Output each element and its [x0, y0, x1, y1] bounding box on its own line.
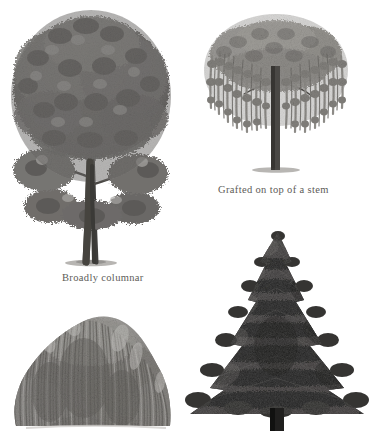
- trunk-overlay: [86, 162, 90, 262]
- trunk-overlay-shadow: [92, 166, 94, 262]
- ground-line: [26, 426, 166, 428]
- canopy-grain: [11, 10, 171, 182]
- figure-conifer: [182, 228, 370, 431]
- conifer-grain: [182, 228, 370, 431]
- trunk-overlay-shadow: [270, 408, 275, 431]
- illustration-page: Broadly columnar: [0, 0, 373, 431]
- ground-shadow-core: [76, 260, 106, 264]
- broadleaf-tree-drawing: [8, 10, 174, 268]
- conifer-tree-drawing: [182, 228, 370, 431]
- caption-grafted: Grafted on top of a stem: [218, 185, 329, 196]
- figure-broadly-columnar: [8, 10, 174, 268]
- figure-grafted-stem: [198, 12, 358, 174]
- caption-columnar: Broadly columnar: [62, 273, 144, 284]
- weeping-grafted-tree-drawing: [198, 12, 358, 174]
- willow-grain: [10, 308, 178, 431]
- stem-overlay-shadow: [271, 66, 275, 168]
- figure-weeping-willow: [10, 308, 178, 431]
- weeping-willow-drawing: [10, 308, 178, 431]
